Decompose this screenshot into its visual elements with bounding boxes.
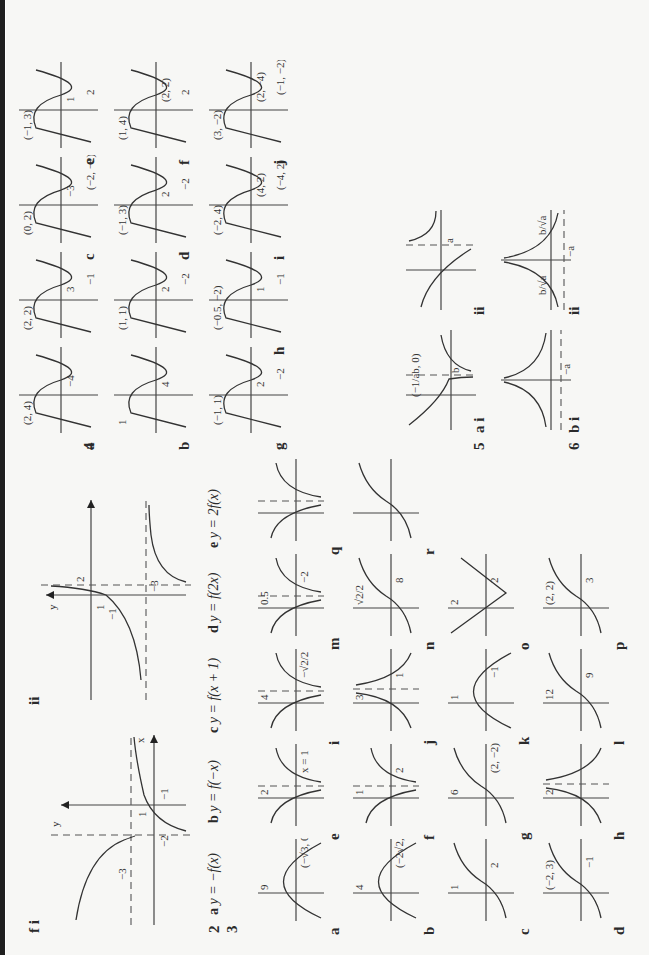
q2-part-letter: b [206, 815, 221, 823]
svg-text:(2, 2): (2, 2) [21, 306, 34, 330]
svg-text:b/√a: b/√a [536, 215, 548, 235]
q4-graph-letter: h [271, 347, 288, 355]
q4-graph-letter: e [81, 158, 98, 165]
svg-text:(−0.5, −2): (−0.5, −2) [211, 285, 224, 330]
svg-text:4: 4 [159, 381, 171, 387]
svg-text:√2/2: √2/2 [353, 585, 365, 605]
q4-graph-letter: d [176, 252, 193, 260]
svg-text:(2, −2): (2, −2) [488, 743, 501, 773]
svg-text:(1, 4): (1, 4) [116, 116, 129, 140]
q4-graph-e: (−1, 3)12 [16, 60, 101, 150]
q2-part-a-equation: y = −f(x) [206, 853, 221, 905]
q4-graph-d: (−1, 3)2−2 [111, 155, 196, 245]
svg-text:2: 2 [74, 577, 86, 583]
question-5-number: 5 [471, 443, 488, 451]
svg-text:2: 2 [488, 578, 500, 584]
svg-text:−a: −a [560, 364, 572, 375]
svg-text:−1: −1 [84, 273, 96, 285]
svg-text:−2: −2 [179, 178, 191, 190]
svg-text:2: 2 [393, 768, 405, 774]
q3-graph-letter: p [611, 642, 628, 650]
svg-text:−4: −4 [64, 375, 76, 387]
q3-graph-letter: c [516, 928, 533, 935]
graph-f-i: y−3−2 1−1x [36, 725, 196, 935]
q3-graph-letter: i [326, 741, 343, 745]
svg-text:2: 2 [159, 287, 171, 293]
svg-text:b: b [449, 367, 461, 373]
svg-text:y: y [46, 604, 58, 610]
svg-text:−1: −1 [106, 608, 118, 620]
svg-text:−2: −2 [179, 273, 191, 285]
svg-text:(1, 1): (1, 1) [116, 306, 129, 330]
svg-text:b/√a: b/√a [536, 275, 548, 295]
q3-graph-b: 4(−2√2, 0) [351, 838, 421, 923]
svg-text:−1: −1 [274, 273, 286, 285]
svg-text:(2, 2): (2, 2) [159, 78, 172, 102]
graph-6b-i: −a [496, 325, 576, 435]
q2-part-e-equation: y = 2f(x) [206, 489, 221, 538]
q3-graph-letter: l [611, 741, 628, 745]
svg-text:(−2, 4): (−2, 4) [211, 205, 224, 235]
svg-text:9: 9 [258, 884, 270, 890]
q4-graph-letter: c [81, 253, 98, 260]
q3-graph-i: 4−√2/2 [256, 648, 326, 733]
q3-graph-letter: o [516, 643, 533, 651]
svg-text:8: 8 [393, 577, 405, 583]
graph-f-ii: y12 −1−3 [36, 490, 196, 710]
q4-graph-extra-2: (2, 2)3−1 [16, 250, 101, 340]
q4-graph-i: (−2, 4)(4, 2)(−4, 2) [206, 155, 291, 245]
q2-part-c-equation: y = f(x + 1) [206, 658, 221, 724]
q4-graph-h: (−0.5, −2)1−1 [206, 250, 291, 340]
svg-text:−2: −2 [158, 835, 170, 847]
q3-graph-letter: g [516, 833, 533, 841]
svg-text:(−1, 3): (−1, 3) [116, 205, 129, 235]
svg-text:3: 3 [583, 577, 595, 583]
svg-text:1: 1 [353, 790, 365, 796]
svg-text:1: 1 [94, 605, 106, 611]
q3-graph-d: (−2, 3)−1 [541, 838, 611, 923]
q2-part-letter: e [206, 542, 221, 548]
q3-graph-letter: n [421, 642, 438, 650]
svg-text:2: 2 [448, 600, 460, 606]
svg-text:−2: −2 [298, 571, 310, 583]
svg-text:−1: −1 [583, 856, 595, 868]
q3-graph-k: 1−1 [446, 648, 516, 733]
svg-text:y: y [49, 821, 61, 827]
q3-graph-letter: f [421, 835, 438, 840]
q4-graph-letter: f [176, 160, 193, 165]
svg-text:0.5: 0.5 [258, 591, 270, 605]
q4-graph-letter: j [271, 160, 288, 165]
q3-graph-letter: a [326, 928, 343, 936]
q4-graph-f: (1, 4)(2, 2)2 [111, 60, 196, 150]
svg-text:2: 2 [488, 863, 500, 869]
q3-graph-e: 2x = 1 [256, 743, 326, 828]
q3-graph-c: 12 [446, 838, 516, 923]
svg-text:6: 6 [448, 789, 460, 795]
q3-graph-o: 22 [446, 553, 516, 638]
svg-text:3: 3 [64, 286, 76, 292]
q3-graph-letter: k [516, 737, 533, 745]
svg-text:9: 9 [583, 672, 595, 678]
q3-graph-letter: h [611, 832, 628, 840]
q2-part-letter: c [206, 727, 221, 733]
svg-text:1: 1 [448, 885, 460, 891]
svg-text:2: 2 [159, 192, 171, 198]
q2-part-d-equation: y = f(2x) [206, 573, 221, 622]
q2-part-letter: a [206, 908, 221, 915]
svg-text:−a: −a [564, 246, 576, 257]
svg-text:(0, 2): (0, 2) [21, 211, 34, 235]
svg-text:4: 4 [353, 884, 365, 890]
q3-graph-m: 0.5−2 [256, 553, 326, 638]
q4-graph-letter: b [176, 442, 193, 450]
svg-text:−√2/2: −√2/2 [298, 652, 310, 678]
q3-graph-letter: b [421, 927, 438, 935]
q3-graph-j: 31 [351, 648, 421, 733]
question-2-number: 2 [206, 926, 223, 934]
rotated-content: f i ii y−3−2 1−1x y12 −1−3 2 a y = −f(x)… [6, 0, 649, 955]
q4-graph-extra-3: (1, 1)2−2 [111, 250, 196, 340]
question-2-row: 2 a y = −f(x) b y = f(−x) c y = f(x + 1)… [206, 473, 246, 933]
svg-text:1: 1 [116, 420, 128, 426]
q3-graph-h: 2 [541, 743, 611, 828]
svg-text:x = 1: x = 1 [298, 750, 310, 773]
svg-text:−3: −3 [148, 580, 160, 592]
